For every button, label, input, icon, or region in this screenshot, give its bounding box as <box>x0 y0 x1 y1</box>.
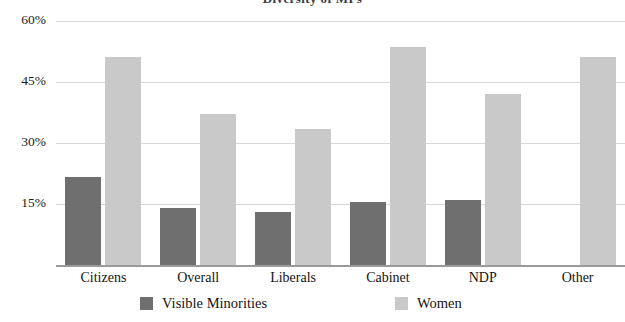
bar-cabinet-women <box>390 47 426 265</box>
chart-title: Diversity of MPs <box>0 0 625 7</box>
legend-label: Visible Minorities <box>162 295 267 312</box>
x-label-liberals: Liberals <box>246 270 341 286</box>
legend-label: Women <box>417 295 462 312</box>
bar-ndp-visible-minorities <box>445 200 481 265</box>
y-tick-label: 60% <box>0 12 46 28</box>
x-label-citizens: Citizens <box>56 270 151 286</box>
bar-citizens-visible-minorities <box>65 177 101 265</box>
bar-ndp-women <box>485 94 521 265</box>
legend-swatch-icon <box>140 297 153 310</box>
bar-citizens-women <box>105 57 141 265</box>
y-tick-label: 45% <box>0 73 46 89</box>
bar-cabinet-visible-minorities <box>350 202 386 265</box>
bar-liberals-women <box>295 129 331 265</box>
bar-liberals-visible-minorities <box>255 212 291 265</box>
x-axis-line <box>56 265 625 267</box>
x-label-other: Other <box>530 270 625 286</box>
chart-root: Diversity of MPs 15%30%45%60% CitizensOv… <box>0 0 625 322</box>
bar-overall-women <box>200 114 236 265</box>
y-tick-label: 30% <box>0 134 46 150</box>
bar-overall-visible-minorities <box>160 208 196 265</box>
legend-swatch-icon <box>395 297 408 310</box>
legend-item-visible-minorities[interactable]: Visible Minorities <box>140 295 267 312</box>
bar-other-women <box>580 57 616 265</box>
gridline <box>56 21 625 22</box>
x-label-cabinet: Cabinet <box>341 270 436 286</box>
chart-legend: Visible MinoritiesWomen <box>0 295 625 319</box>
x-label-overall: Overall <box>151 270 246 286</box>
x-label-ndp: NDP <box>435 270 530 286</box>
y-tick-label: 15% <box>0 195 46 211</box>
legend-item-women[interactable]: Women <box>395 295 462 312</box>
